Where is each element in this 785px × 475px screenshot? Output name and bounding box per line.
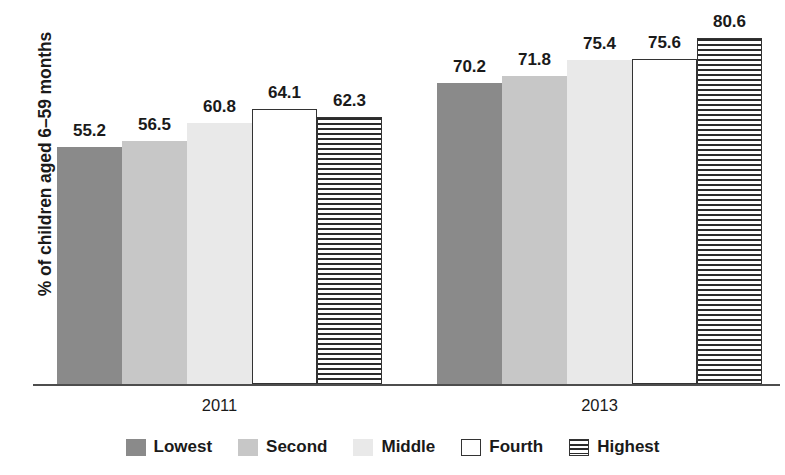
bar-value-label: 56.5 xyxy=(116,115,193,135)
bar-value-label: 80.6 xyxy=(691,12,768,32)
legend-label: Highest xyxy=(597,437,659,457)
bar-highest-2013 xyxy=(697,38,762,384)
bar-value-label: 62.3 xyxy=(311,91,388,111)
legend-item-second[interactable]: Second xyxy=(238,437,327,457)
legend-item-lowest[interactable]: Lowest xyxy=(126,437,213,457)
bar-lowest-2011 xyxy=(57,147,122,384)
x-tick-label-2013: 2013 xyxy=(437,396,762,415)
chart-legend: LowestSecondMiddleFourthHighest xyxy=(0,437,785,457)
legend-swatch-middle-icon xyxy=(353,439,373,456)
bar-middle-2011 xyxy=(187,123,252,384)
bar-lowest-2013 xyxy=(437,83,502,384)
plot-area: 55.256.560.864.162.370.271.875.475.680.6 xyxy=(33,10,780,376)
bar-value-label: 75.6 xyxy=(626,33,703,53)
legend-label: Second xyxy=(266,437,327,457)
bar-highest-2011 xyxy=(317,117,382,384)
legend-swatch-highest-icon xyxy=(569,439,589,456)
legend-swatch-second-icon xyxy=(238,439,258,456)
bar-chart: % of children aged 6–59 months 55.256.56… xyxy=(0,0,785,475)
legend-item-middle[interactable]: Middle xyxy=(353,437,435,457)
legend-swatch-fourth-icon xyxy=(461,439,481,456)
legend-label: Lowest xyxy=(154,437,213,457)
bar-second-2011 xyxy=(122,141,187,384)
bar-middle-2013 xyxy=(567,60,632,384)
legend-item-highest[interactable]: Highest xyxy=(569,437,659,457)
x-axis-baseline xyxy=(33,384,780,386)
legend-item-fourth[interactable]: Fourth xyxy=(461,437,543,457)
bar-fourth-2011 xyxy=(252,109,317,384)
bar-fourth-2013 xyxy=(632,59,697,384)
bar-second-2013 xyxy=(502,76,567,384)
x-tick-label-2011: 2011 xyxy=(57,396,382,415)
legend-label: Fourth xyxy=(489,437,543,457)
legend-swatch-lowest-icon xyxy=(126,439,146,456)
legend-label: Middle xyxy=(381,437,435,457)
